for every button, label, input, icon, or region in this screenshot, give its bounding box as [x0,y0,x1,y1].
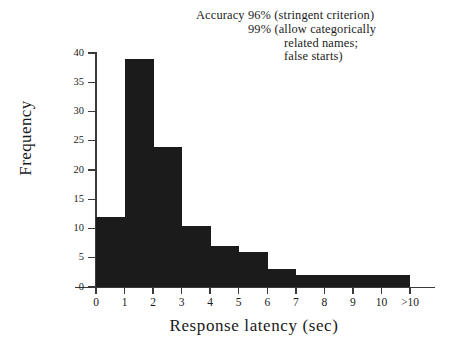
x-tick-mark [238,288,239,294]
x-tick-mark [267,288,268,294]
y-tick-label: 0 [58,282,84,293]
x-tick-mark [181,288,182,294]
x-tick-mark [409,288,410,294]
histogram-bar [239,252,268,287]
x-tick-label: 9 [338,296,368,308]
y-tick-label: 5 [58,252,84,263]
y-tick-label: 10 [58,223,84,234]
y-tick-mark [88,257,95,258]
x-tick-label: 2 [138,296,168,308]
x-tick-mark [152,288,153,294]
y-tick-mark [88,228,95,229]
histogram-bar [324,275,353,287]
x-tick-mark [295,288,296,294]
y-tick-label: 40 [58,48,84,59]
histogram-bar [267,269,296,287]
x-tick-mark [124,288,125,294]
histogram-bar [182,226,211,287]
x-tick-label: 5 [224,296,254,308]
x-tick-label: 10 [366,296,396,308]
x-tick-mark [95,288,96,294]
histogram-bar [296,275,325,287]
y-tick-label: 25 [58,135,84,146]
y-tick-label: 35 [58,77,84,88]
y-tick-mark [88,140,95,141]
x-tick-label: 8 [309,296,339,308]
histogram-bar [96,217,125,287]
histogram-bar [125,59,154,287]
y-tick-mark [88,111,95,112]
x-tick-mark [352,288,353,294]
histogram-bar [381,275,410,287]
annotation-line-1: Accuracy 96% (stringent criterion) [196,9,440,23]
x-tick-label: 3 [167,296,197,308]
x-tick-mark [324,288,325,294]
x-tick-mark [209,288,210,294]
y-tick-mark [88,286,95,287]
annotation-line-3: related names; [196,37,440,51]
y-axis-title: Frequency [16,78,36,198]
x-tick-label: 0 [81,296,111,308]
y-tick-label: 20 [58,165,84,176]
histogram-bar [210,246,239,287]
y-tick-label: 30 [58,106,84,117]
y-tick-mark [88,169,95,170]
histogram-figure: Accuracy 96% (stringent criterion) 99% (… [0,0,450,351]
y-tick-mark [88,199,95,200]
y-tick-label: 15 [58,194,84,205]
x-tick-label: 4 [195,296,225,308]
x-tick-label: 1 [110,296,140,308]
x-axis-title: Response latency (sec) [96,316,412,336]
x-tick-label: >10 [395,296,425,308]
histogram-bar [153,147,182,287]
y-tick-mark [88,52,95,53]
x-tick-label: 6 [252,296,282,308]
plot-area [96,53,410,287]
annotation-line-2: 99% (allow categorically [196,23,440,37]
x-tick-label: 7 [281,296,311,308]
x-tick-mark [381,288,382,294]
y-tick-mark [88,82,95,83]
histogram-bar [353,275,382,287]
